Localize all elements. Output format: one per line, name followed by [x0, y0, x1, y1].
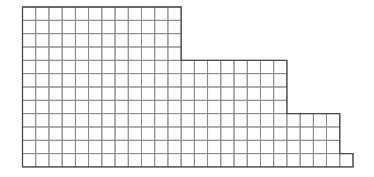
grid-cell — [89, 7, 102, 20]
grid-cell — [49, 34, 62, 47]
grid-cell — [155, 34, 168, 47]
grid-cell — [49, 87, 62, 100]
grid-cell — [23, 47, 36, 60]
grid-cell — [300, 127, 313, 140]
grid-cell — [234, 87, 247, 100]
grid-cell — [221, 127, 234, 140]
grid-cell — [128, 100, 141, 113]
grid-cell — [49, 154, 62, 167]
grid-cell — [89, 140, 102, 153]
grid-cell — [62, 60, 75, 73]
grid-cell — [36, 34, 49, 47]
grid-cell — [23, 127, 36, 140]
grid-cell — [115, 87, 128, 100]
grid-cell — [115, 7, 128, 20]
grid-cell — [155, 7, 168, 20]
grid-cell — [36, 127, 49, 140]
grid-cell — [141, 140, 154, 153]
grid-cell — [168, 114, 181, 127]
grid-cell — [234, 114, 247, 127]
grid-cell — [327, 127, 340, 140]
grid-cell — [247, 60, 260, 73]
grid-cell — [128, 20, 141, 33]
grid-cell — [128, 60, 141, 73]
grid-cell — [327, 154, 340, 167]
grid-cell — [234, 140, 247, 153]
grid-cell — [115, 34, 128, 47]
grid-cell — [208, 60, 221, 73]
grid-cell — [287, 114, 300, 127]
grid-cell — [260, 100, 273, 113]
grid-cell — [168, 7, 181, 20]
grid-cell — [141, 60, 154, 73]
grid-cell — [247, 127, 260, 140]
grid-cell — [102, 47, 115, 60]
grid-cell — [89, 114, 102, 127]
grid-cell — [155, 100, 168, 113]
grid-cell — [23, 20, 36, 33]
grid-cell — [36, 7, 49, 20]
grid-cell — [155, 74, 168, 87]
grid-cell — [89, 20, 102, 33]
grid-cell — [89, 100, 102, 113]
grid-cell — [36, 60, 49, 73]
grid-cell — [260, 127, 273, 140]
grid-cell — [75, 7, 88, 20]
grid-cell — [234, 154, 247, 167]
grid-cell — [23, 87, 36, 100]
grid-cell — [340, 154, 353, 167]
grid-cell — [168, 47, 181, 60]
grid-cell — [89, 87, 102, 100]
grid-cell — [274, 127, 287, 140]
grid-cell — [208, 114, 221, 127]
grid-cell — [208, 74, 221, 87]
grid-cell — [23, 7, 36, 20]
grid-cell — [168, 100, 181, 113]
grid-cell — [115, 60, 128, 73]
grid-cell — [260, 154, 273, 167]
grid-cell — [274, 100, 287, 113]
grid-cell — [62, 140, 75, 153]
grid-cell — [194, 154, 207, 167]
grid-cell — [221, 140, 234, 153]
grid-cell — [102, 100, 115, 113]
grid-cell — [102, 114, 115, 127]
grid-cell — [89, 154, 102, 167]
grid-cell — [287, 127, 300, 140]
grid-cell — [128, 127, 141, 140]
grid-cell — [155, 140, 168, 153]
grid-cell — [75, 100, 88, 113]
grid-cell — [168, 87, 181, 100]
grid-cell — [141, 114, 154, 127]
grid-cell — [155, 20, 168, 33]
grid-cell — [102, 20, 115, 33]
grid-cell — [128, 87, 141, 100]
grid-cell — [23, 140, 36, 153]
grid-cell — [75, 154, 88, 167]
grid-cell — [221, 60, 234, 73]
grid-cell — [141, 154, 154, 167]
grid-cell — [168, 34, 181, 47]
grid-cell — [36, 154, 49, 167]
grid-cell — [194, 74, 207, 87]
grid-canvas — [0, 0, 374, 177]
grid-cell — [247, 140, 260, 153]
grid-cell — [62, 127, 75, 140]
grid-cell — [313, 154, 326, 167]
grid-cell — [287, 154, 300, 167]
grid-cell — [49, 60, 62, 73]
grid-cell — [141, 20, 154, 33]
grid-cell — [221, 114, 234, 127]
grid-cell — [194, 114, 207, 127]
grid-inner-lines — [23, 7, 354, 167]
grid-cell — [234, 100, 247, 113]
grid-cell — [155, 127, 168, 140]
grid-cell — [128, 154, 141, 167]
grid-cell — [23, 74, 36, 87]
grid-cell — [313, 114, 326, 127]
grid-cell — [128, 47, 141, 60]
grid-cell — [181, 114, 194, 127]
grid-cell — [168, 20, 181, 33]
grid-cell — [115, 100, 128, 113]
grid-cell — [234, 127, 247, 140]
